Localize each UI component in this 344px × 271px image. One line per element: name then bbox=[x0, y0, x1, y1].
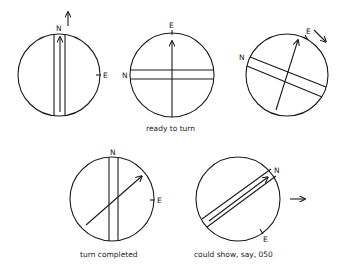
compass-panel-turn-completed bbox=[70, 157, 155, 241]
north-label: N bbox=[239, 53, 245, 62]
orienting-line-bottom bbox=[207, 176, 276, 227]
east-label: E bbox=[169, 21, 174, 30]
compass-diagram: N E E N N E N E N E bbox=[0, 0, 344, 271]
caption-ready-to-turn: ready to turn bbox=[146, 124, 195, 133]
north-label: N bbox=[110, 148, 116, 157]
orienting-line-top bbox=[202, 169, 271, 219]
east-label: E bbox=[157, 196, 162, 205]
compass-dial bbox=[70, 157, 154, 241]
direction-arrow bbox=[86, 176, 142, 225]
east-label: E bbox=[306, 27, 311, 36]
north-label: N bbox=[122, 71, 128, 80]
rotation-arrow-icon bbox=[314, 30, 326, 42]
compass-panel-turning bbox=[246, 30, 328, 116]
direction-arrow bbox=[209, 177, 268, 221]
north-label: N bbox=[56, 24, 62, 33]
compass-dial bbox=[18, 34, 100, 116]
caption-could-show: could show, say, 050 bbox=[194, 250, 273, 259]
caption-turn-completed: turn completed bbox=[80, 250, 138, 259]
compass-panel-could-show bbox=[196, 157, 305, 241]
east-label: E bbox=[103, 71, 108, 80]
north-label: N bbox=[274, 166, 280, 175]
east-label: E bbox=[263, 235, 268, 244]
compass-panel-ready-to-turn bbox=[130, 30, 214, 117]
